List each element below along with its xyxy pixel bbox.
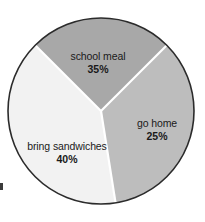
slice-label-school-meal: school meal 35% bbox=[46, 50, 150, 75]
slice-label-bring-sandwiches: bring sandwiches 40% bbox=[8, 140, 126, 165]
slice-label-go-home: go home 25% bbox=[114, 117, 200, 142]
slice-label-go-home-name: go home bbox=[114, 117, 200, 129]
slice-label-bring-sandwiches-percent: 40% bbox=[8, 153, 126, 165]
pie-chart-figure: school meal 35% go home 25% bring sandwi… bbox=[0, 0, 205, 222]
slice-label-school-meal-percent: 35% bbox=[46, 63, 150, 75]
slice-label-school-meal-name: school meal bbox=[46, 50, 150, 62]
page-edge-artifact bbox=[0, 183, 3, 190]
pie-chart-graphic bbox=[0, 0, 205, 222]
slice-label-go-home-percent: 25% bbox=[114, 130, 200, 142]
slice-label-bring-sandwiches-name: bring sandwiches bbox=[8, 140, 126, 152]
